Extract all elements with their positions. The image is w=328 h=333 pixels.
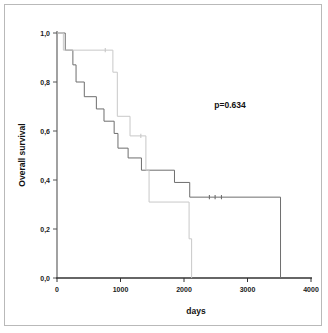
y-tick-label: 0,4 bbox=[40, 177, 50, 185]
y-tick-label: 0,0 bbox=[40, 275, 50, 283]
y-tick-label: 0,8 bbox=[40, 79, 50, 87]
survival-curve-group-1 bbox=[57, 33, 281, 278]
x-tick-label: 3000 bbox=[240, 286, 256, 293]
x-tick-label: 1000 bbox=[113, 286, 129, 293]
x-tick-label: 0 bbox=[55, 286, 59, 293]
x-tick-label: 2000 bbox=[176, 286, 192, 293]
survival-curves bbox=[57, 33, 281, 278]
x-axis-ticks: 01000200030004000 bbox=[55, 278, 319, 293]
x-tick-label: 4000 bbox=[303, 286, 319, 293]
y-tick-label: 1,0 bbox=[40, 30, 50, 38]
kaplan-meier-plot: 0,00,20,40,60,81,0 01000200030004000 p=0… bbox=[0, 0, 328, 333]
y-axis-ticks: 0,00,20,40,60,81,0 bbox=[40, 30, 57, 283]
y-axis-label: Overall survival bbox=[17, 123, 27, 186]
survival-curve-group-2 bbox=[57, 33, 192, 278]
y-tick-label: 0,2 bbox=[40, 226, 50, 234]
axes-group bbox=[56, 31, 312, 278]
y-tick-label: 0,6 bbox=[40, 128, 50, 136]
survival-figure: 0,00,20,40,60,81,0 01000200030004000 p=0… bbox=[0, 0, 328, 333]
x-axis-label: days bbox=[186, 306, 206, 316]
censoring-marks bbox=[105, 48, 221, 199]
p-value-annotation: p=0.634 bbox=[214, 100, 246, 110]
